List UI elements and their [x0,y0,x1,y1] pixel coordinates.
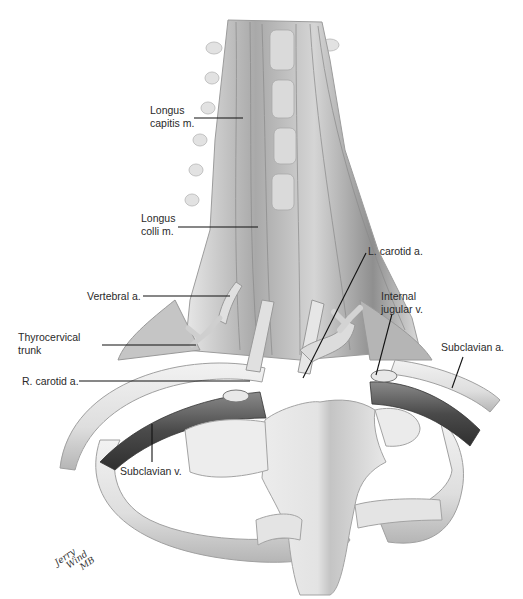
right-clavicle-end [185,420,268,477]
label-l-carotid-artery: L. carotid a. [368,245,423,258]
label-thyrocervical-trunk: Thyrocervical trunk [18,331,80,357]
label-r-carotid-artery: R. carotid a. [22,375,79,388]
label-longus-capitis: Longus capitis m. [150,104,194,130]
left-clavicle-end [375,408,420,446]
label-subclavian-vein: Subclavian v. [120,465,182,478]
label-vertebral-artery: Vertebral a. [87,290,141,303]
label-internal-jugular-vein: Internal jugular v. [381,290,423,316]
label-subclavian-artery: Subclavian a. [441,341,504,354]
label-longus-colli: Longus colli m. [141,212,175,238]
neck-illustration [0,0,523,599]
manubrium [262,400,386,595]
anatomy-figure: Longus capitis m. Longus colli m. Verteb… [0,0,523,599]
